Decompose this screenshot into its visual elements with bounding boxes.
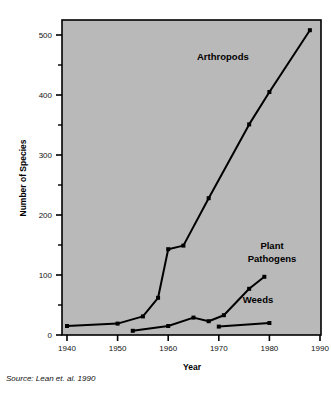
data-point-marker (181, 244, 185, 248)
data-point-marker (207, 319, 211, 323)
data-point-marker (192, 316, 196, 320)
y-tick-label: 400 (39, 91, 53, 100)
figure-container: 0100200300400500 19401950196019701980199… (0, 0, 331, 396)
plot-area-background (62, 20, 321, 335)
x-axis-title: Year (183, 362, 202, 372)
y-tick-label: 500 (39, 31, 53, 40)
x-tick-label: 1940 (58, 344, 76, 353)
data-point-marker (267, 321, 271, 325)
species-increase-line-chart: 0100200300400500 19401950196019701980199… (0, 0, 331, 396)
data-point-marker (116, 322, 120, 326)
x-axis-ticks: 194019501960197019801990 (58, 335, 329, 353)
source-note: Source: Lean et. al. 1990 (6, 374, 96, 383)
data-point-marker (207, 196, 211, 200)
y-tick-label: 100 (39, 271, 53, 280)
data-point-marker (262, 275, 266, 279)
data-point-marker (131, 329, 135, 333)
x-tick-label: 1960 (159, 344, 177, 353)
x-tick-label: 1950 (109, 344, 127, 353)
data-point-marker (267, 90, 271, 94)
series-label-arthropods: Arthropods (197, 51, 249, 62)
data-point-marker (156, 296, 160, 300)
series-label-weeds: Weeds (243, 294, 273, 305)
x-tick-label: 1980 (261, 344, 279, 353)
data-point-marker (141, 314, 145, 318)
data-point-marker (247, 287, 251, 291)
series-label-plant-pathogens-line2: Pathogens (248, 253, 297, 264)
x-tick-label: 1970 (210, 344, 228, 353)
data-point-marker (217, 325, 221, 329)
y-tick-label: 300 (39, 151, 53, 160)
data-point-marker (65, 324, 69, 328)
data-point-marker (247, 122, 251, 126)
data-point-marker (222, 313, 226, 317)
series-label-plant-pathogens-line1: Plant (260, 240, 284, 251)
y-tick-label: 0 (48, 331, 53, 340)
data-point-marker (166, 324, 170, 328)
x-tick-label: 1990 (311, 344, 329, 353)
data-point-marker (308, 28, 312, 32)
y-tick-label: 200 (39, 211, 53, 220)
y-axis-title: Number of Species (18, 139, 28, 216)
data-point-marker (166, 247, 170, 251)
